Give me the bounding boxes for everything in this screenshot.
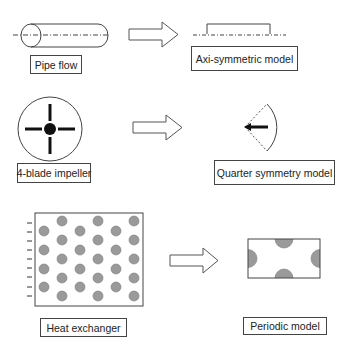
heat-exchanger-label: Heat exchanger [40, 318, 127, 337]
axisymmetric-model-label: Axi-symmetric model [191, 46, 298, 71]
inflow-arrows-icon [27, 223, 32, 296]
axisymmetric-model-icon [193, 24, 286, 35]
impeller-label: 4-blade impeller [17, 163, 91, 183]
quarter-symmetry-model-icon [244, 104, 277, 151]
arrow-right-icon [170, 248, 218, 273]
impeller-icon [18, 97, 82, 161]
periodic-model-icon [239, 230, 329, 287]
quarter-symmetry-model-label: Quarter symmetry model [214, 160, 335, 185]
pipe-flow-label: Pipe flow [30, 55, 82, 74]
periodic-model-label: Periodic model [243, 317, 327, 335]
arrow-right-icon [129, 22, 178, 47]
pipe-cylinder-icon [13, 24, 108, 47]
arrow-right-icon [133, 115, 182, 140]
heat-exchanger-icon [27, 213, 143, 306]
